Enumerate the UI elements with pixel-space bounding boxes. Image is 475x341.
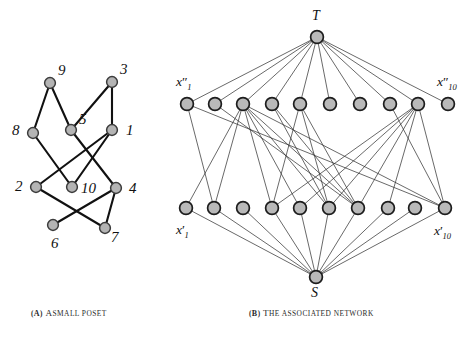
network-node-xpp4[interactable] bbox=[266, 98, 279, 111]
network-node-xp4[interactable] bbox=[266, 202, 279, 215]
network-node-xpp9[interactable] bbox=[412, 98, 425, 111]
network-edge-xpp1-T bbox=[187, 37, 317, 104]
poset-node-label-7: 7 bbox=[111, 229, 119, 246]
network-edge-group bbox=[186, 37, 448, 277]
network-edge-xpp9-xp6 bbox=[329, 104, 418, 208]
poset-node-label-9: 9 bbox=[58, 62, 66, 79]
poset-node-1[interactable] bbox=[107, 125, 118, 136]
network-edge-xpp9-xp10 bbox=[418, 104, 445, 208]
network-edge-S-xp2 bbox=[214, 208, 316, 277]
network-node-xpp8[interactable] bbox=[384, 98, 397, 111]
network-node-xpp1[interactable] bbox=[181, 98, 194, 111]
network-node-xp10[interactable] bbox=[439, 202, 452, 215]
subfigure-a-tag: (A) bbox=[31, 310, 43, 318]
network-node-xp5[interactable] bbox=[294, 202, 307, 215]
network-edge-xpp3-T bbox=[243, 37, 317, 104]
network-node-label-xp1: x′1 bbox=[176, 222, 189, 240]
poset-node-8[interactable] bbox=[28, 128, 39, 139]
network-edge-S-xp9 bbox=[316, 208, 415, 277]
network-node-xp1[interactable] bbox=[180, 202, 193, 215]
network-node-xp7[interactable] bbox=[352, 202, 365, 215]
network-edge-xpp4-xp6 bbox=[272, 104, 329, 208]
network-edge-xpp3-xp2 bbox=[214, 104, 243, 208]
subfigure-a-caption-lead: A bbox=[45, 308, 52, 318]
poset-node-4[interactable] bbox=[111, 183, 122, 194]
network-edge-xpp2-xp7 bbox=[215, 104, 358, 208]
poset-node-9[interactable] bbox=[45, 78, 56, 89]
poset-node-label-4: 4 bbox=[129, 180, 137, 197]
network-node-label-xpp1: x″1 bbox=[176, 74, 191, 92]
network-node-S[interactable] bbox=[310, 271, 323, 284]
poset-node-label-2: 2 bbox=[15, 178, 23, 195]
network-node-label-xp10: x′10 bbox=[434, 223, 451, 241]
poset-node-7[interactable] bbox=[100, 223, 111, 234]
network-node-label-S: S bbox=[311, 285, 318, 301]
poset-node-5[interactable] bbox=[66, 125, 77, 136]
network-edge-xpp9-xp7 bbox=[358, 104, 418, 208]
network-node-label-T: T bbox=[312, 8, 320, 24]
network-edge-xpp9-xp5 bbox=[300, 104, 418, 208]
poset-edge-9-8 bbox=[33, 83, 50, 133]
network-edge-xpp3-xp4 bbox=[243, 104, 272, 208]
network-node-label-xpp10: x″10 bbox=[437, 74, 457, 92]
network-edge-S-xp5 bbox=[300, 208, 316, 277]
subfigure-b-tag: (B) bbox=[249, 310, 260, 318]
figure-svg bbox=[0, 0, 475, 341]
poset-edge-8-10 bbox=[33, 133, 72, 187]
network-node-xp2[interactable] bbox=[208, 202, 221, 215]
network-edge-xpp8-xp10 bbox=[390, 104, 445, 208]
network-node-group bbox=[180, 31, 455, 284]
poset-node-label-10: 10 bbox=[81, 180, 96, 197]
network-node-xpp6[interactable] bbox=[324, 98, 337, 111]
network-edge-xpp3-xp5 bbox=[243, 104, 300, 208]
poset-node-label-1: 1 bbox=[126, 122, 134, 139]
poset-edge-3-5 bbox=[71, 82, 112, 130]
network-edge-S-xp4 bbox=[272, 208, 316, 277]
network-edge-xpp5-xp6 bbox=[300, 104, 329, 208]
poset-node-label-8: 8 bbox=[12, 122, 20, 139]
network-node-T[interactable] bbox=[311, 31, 324, 44]
network-edge-S-xp1 bbox=[186, 208, 316, 277]
poset-node-label-6: 6 bbox=[51, 235, 59, 252]
network-node-xpp2[interactable] bbox=[209, 98, 222, 111]
network-node-xpp7[interactable] bbox=[354, 98, 367, 111]
figure-container: 93851210467 TSx″1x″10x′1x′10 (A) ASMALL … bbox=[0, 0, 475, 341]
poset-node-label-5: 5 bbox=[79, 111, 87, 128]
network-edge-xpp9-T bbox=[317, 37, 418, 104]
poset-edge-1-2 bbox=[36, 130, 112, 187]
network-edge-S-xp3 bbox=[243, 208, 316, 277]
network-edge-xpp5-xp7 bbox=[300, 104, 358, 208]
poset-edge-group bbox=[33, 82, 116, 228]
network-node-xp9[interactable] bbox=[409, 202, 422, 215]
network-node-xp8[interactable] bbox=[382, 202, 395, 215]
network-edge-xpp4-T bbox=[272, 37, 317, 104]
network-edge-xpp5-T bbox=[300, 37, 317, 104]
network-edge-xpp10-T bbox=[317, 37, 448, 104]
subfigure-b-caption: (B) THE ASSOCIATED NETWORK bbox=[249, 308, 374, 318]
network-node-xpp5[interactable] bbox=[294, 98, 307, 111]
subfigure-a-caption-rest: SMALL POSET bbox=[53, 309, 107, 318]
poset-node-label-3: 3 bbox=[120, 61, 128, 78]
network-edge-xpp1-xp2 bbox=[187, 104, 214, 208]
poset-node-10[interactable] bbox=[67, 182, 78, 193]
network-node-xp6[interactable] bbox=[323, 202, 336, 215]
poset-node-3[interactable] bbox=[107, 77, 118, 88]
poset-node-2[interactable] bbox=[31, 182, 42, 193]
network-edge-xpp9-xp8 bbox=[388, 104, 418, 208]
network-edge-xpp3-xp1 bbox=[186, 104, 243, 208]
network-edge-xpp3-xp10 bbox=[243, 104, 445, 208]
subfigure-b-caption-rest: HE ASSOCIATED NETWORK bbox=[269, 309, 374, 318]
network-edge-S-xp10 bbox=[316, 208, 445, 277]
network-edge-xpp2-T bbox=[215, 37, 317, 104]
network-node-xpp10[interactable] bbox=[442, 98, 455, 111]
poset-node-6[interactable] bbox=[48, 220, 59, 231]
subfigure-a-caption: (A) ASMALL POSET bbox=[31, 308, 107, 318]
poset-edge-9-5 bbox=[50, 83, 71, 130]
network-node-xp3[interactable] bbox=[237, 202, 250, 215]
network-node-xpp3[interactable] bbox=[237, 98, 250, 111]
